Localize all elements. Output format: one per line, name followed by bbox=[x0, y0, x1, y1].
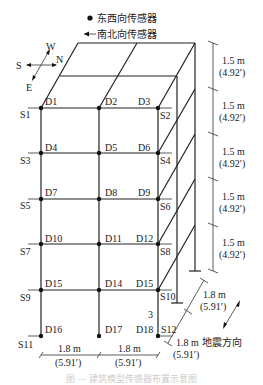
svg-text:1.8 m: 1.8 m bbox=[118, 343, 141, 354]
svg-text:D16: D16 bbox=[45, 324, 62, 335]
svg-text:D14: D14 bbox=[105, 278, 122, 289]
svg-text:D12: D12 bbox=[136, 233, 153, 244]
svg-text:(5.91′): (5.91′) bbox=[200, 301, 226, 313]
svg-text:D17: D17 bbox=[105, 324, 122, 335]
svg-text:(5.91′): (5.91′) bbox=[55, 357, 81, 369]
svg-text:(4.92′): (4.92′) bbox=[219, 67, 245, 79]
svg-text:1.8 m: 1.8 m bbox=[58, 343, 81, 354]
svg-text:3: 3 bbox=[148, 309, 153, 320]
svg-text:S1: S1 bbox=[20, 109, 31, 120]
svg-text:D11: D11 bbox=[105, 233, 122, 244]
svg-text:D5: D5 bbox=[105, 142, 117, 153]
svg-text:W: W bbox=[46, 41, 56, 52]
ns-sensors: S1 S2 S3 S4 S5 S6 S7 S8 S9 S10 S11 S12 3 bbox=[18, 108, 177, 350]
svg-text:D15: D15 bbox=[45, 278, 62, 289]
bay-width-dimensions: 1.8 m (5.91′) 1.8 m (5.91′) bbox=[39, 343, 160, 369]
svg-text:D18: D18 bbox=[136, 324, 153, 335]
svg-text:S12: S12 bbox=[161, 324, 177, 335]
compass-icon: W N S E bbox=[16, 41, 63, 93]
svg-text:N: N bbox=[56, 54, 63, 65]
svg-text:(4.92′): (4.92′) bbox=[219, 112, 245, 124]
svg-text:S2: S2 bbox=[160, 110, 171, 121]
svg-text:1.5 m: 1.5 m bbox=[222, 100, 245, 111]
legend-dot-icon bbox=[87, 15, 92, 20]
svg-text:D8: D8 bbox=[105, 187, 117, 198]
svg-text:D1: D1 bbox=[45, 96, 57, 107]
svg-text:S: S bbox=[16, 60, 22, 71]
svg-text:D3: D3 bbox=[138, 96, 150, 107]
svg-text:S9: S9 bbox=[20, 292, 31, 303]
legend-ew: 东西向传感器 bbox=[97, 12, 157, 24]
svg-text:1.5 m: 1.5 m bbox=[222, 55, 245, 66]
svg-text:D15: D15 bbox=[136, 278, 153, 289]
svg-text:S8: S8 bbox=[160, 246, 171, 257]
legend-ns: 南北向传感器 bbox=[97, 28, 157, 40]
svg-text:S3: S3 bbox=[20, 155, 31, 166]
svg-text:1.5 m: 1.5 m bbox=[222, 237, 245, 248]
figure-caption: 图 — 建筑模型传感器布置示意图 bbox=[0, 372, 263, 385]
svg-text:D7: D7 bbox=[45, 187, 57, 198]
story-height-dimensions: 1.5 m (4.92′) 1.5 m (4.92′) 1.5 m (4.92′… bbox=[208, 41, 245, 273]
svg-text:1.5 m: 1.5 m bbox=[222, 191, 245, 202]
svg-text:D2: D2 bbox=[105, 96, 117, 107]
svg-text:(5.91′): (5.91′) bbox=[173, 349, 199, 361]
svg-text:S11: S11 bbox=[18, 339, 33, 350]
svg-text:S4: S4 bbox=[160, 155, 171, 166]
svg-text:(4.92′): (4.92′) bbox=[219, 203, 245, 215]
svg-text:1.8 m: 1.8 m bbox=[176, 337, 199, 348]
svg-text:(5.91′): (5.91′) bbox=[115, 357, 141, 369]
svg-text:S6: S6 bbox=[160, 201, 171, 212]
svg-text:S7: S7 bbox=[20, 246, 31, 257]
svg-text:(4.92′): (4.92′) bbox=[219, 158, 245, 170]
depth-dimensions: 1.8 m (5.91′) 1.8 m (5.91′) 地震方向 bbox=[164, 278, 242, 361]
svg-text:S5: S5 bbox=[20, 200, 31, 211]
svg-text:(4.92′): (4.92′) bbox=[219, 249, 245, 261]
svg-text:E: E bbox=[26, 82, 32, 93]
svg-text:地震方向: 地震方向 bbox=[202, 336, 242, 348]
svg-text:D6: D6 bbox=[138, 142, 150, 153]
svg-text:1.8 m: 1.8 m bbox=[203, 289, 226, 300]
building-frame bbox=[41, 43, 201, 336]
svg-text:D10: D10 bbox=[45, 233, 62, 244]
svg-text:D9: D9 bbox=[138, 187, 150, 198]
svg-text:1.5 m: 1.5 m bbox=[222, 146, 245, 157]
svg-text:D4: D4 bbox=[45, 142, 57, 153]
svg-text:S10: S10 bbox=[160, 291, 176, 302]
